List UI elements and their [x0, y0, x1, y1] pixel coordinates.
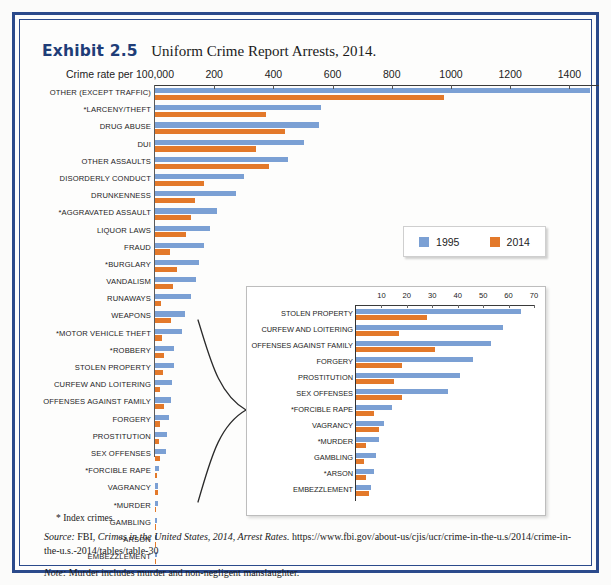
inset-bar-pair	[356, 373, 460, 387]
inset-bar-pair	[356, 453, 376, 467]
bar-2014	[155, 456, 160, 461]
bar-row: *LARCENY/THEFT	[20, 104, 595, 121]
inset-bar-2014	[356, 347, 435, 352]
exhibit-label: Exhibit 2.5	[42, 42, 138, 60]
bar-pair	[155, 449, 166, 464]
bar-row: DUI	[20, 139, 595, 156]
inset-x-tick-60: 60	[504, 291, 512, 300]
bar-pair	[155, 140, 304, 155]
inset-bar-1995	[356, 325, 503, 330]
inset-bar-1995	[356, 357, 473, 362]
bar-2014	[155, 318, 171, 323]
inset-bar-pair	[356, 469, 374, 483]
bar-pair	[155, 157, 288, 172]
inset-bar-pair	[356, 421, 384, 435]
bar-row: *BURGLARY	[20, 259, 595, 276]
inset-x-tick-mark-60	[509, 305, 510, 308]
bar-2014	[155, 335, 162, 340]
bar-1995	[155, 243, 204, 248]
bar-row-label: DRUNKENNESS	[0, 191, 151, 200]
bar-2014	[155, 301, 161, 306]
bar-1995	[155, 501, 158, 506]
inset-bar-1995	[356, 389, 448, 394]
bar-pair	[155, 346, 174, 361]
x-tick-1000: 1000	[439, 68, 462, 80]
inset-x-tick-20: 20	[403, 291, 411, 300]
bar-1995	[155, 226, 210, 231]
bar-2014	[155, 284, 173, 289]
bar-1995	[155, 88, 590, 93]
bar-2014	[155, 507, 156, 512]
bar-pair	[155, 432, 167, 447]
inset-bar-pair	[356, 341, 491, 355]
x-tick-mark-200	[214, 85, 215, 89]
inset-bar-row: OFFENSES AGAINST FAMILY	[247, 339, 545, 355]
bar-row: DRUNKENNESS	[20, 190, 595, 207]
bar-row-label: VAGRANCY	[0, 483, 151, 492]
source-note: Source: FBI, Crimes in the United States…	[44, 530, 584, 557]
inset-bar-1995	[356, 373, 460, 378]
inset-bar-pair	[356, 405, 392, 419]
inset-bar-row: GAMBLING	[247, 451, 545, 467]
inset-bar-2014	[356, 315, 427, 320]
inset-bar-pair	[356, 437, 379, 451]
bar-2014	[155, 164, 269, 169]
inset-bar-pair	[356, 357, 473, 371]
bar-pair	[155, 483, 158, 498]
legend-swatch-1995	[419, 237, 429, 247]
bar-1995	[155, 329, 182, 334]
inset-bar-1995	[356, 485, 371, 490]
bar-1995	[155, 466, 159, 471]
x-tick-mark-1000	[451, 85, 452, 89]
x-tick-mark-1200	[510, 85, 511, 89]
bar-1995	[155, 122, 319, 127]
exhibit-frame-inner: Exhibit 2.5 Uniform Crime Report Arrests…	[19, 19, 592, 566]
bar-2014	[155, 129, 285, 134]
bar-1995	[155, 518, 157, 523]
bar-1995	[155, 397, 171, 402]
x-tick-mark-800	[392, 85, 393, 89]
bar-row-label: WEAPONS	[0, 311, 151, 320]
inset-bar-2014	[356, 491, 369, 496]
legend-item-2014: 2014	[490, 236, 530, 248]
inset-x-axis-tick-labels: 10203040506070	[247, 291, 545, 303]
inset-x-tick-10: 10	[377, 291, 385, 300]
bar-pair	[155, 294, 191, 309]
bar-pair	[155, 191, 236, 206]
inset-x-tick-30: 30	[428, 291, 436, 300]
bar-pair	[155, 243, 204, 258]
inset-bar-row: SEX OFFENSES	[247, 387, 545, 403]
x-tick-mark-400	[273, 85, 274, 89]
note-label: Note:	[44, 567, 66, 578]
bar-row-label: SEX OFFENSES	[0, 449, 151, 458]
inset-x-tick-mark-30	[432, 305, 433, 308]
bar-row-label: *MURDER	[0, 501, 151, 510]
index-crimes-footnote: * Index crimes	[56, 513, 112, 523]
source-italic-title: Crimes in the United States, 2014, Arres…	[98, 531, 290, 542]
inset-bar-pair	[356, 485, 371, 499]
bar-row-label: DUI	[0, 140, 151, 149]
bar-1995	[155, 174, 244, 179]
inset-bar-rows: STOLEN PROPERTYCURFEW AND LOITERINGOFFEN…	[247, 307, 545, 499]
inset-bar-row: CURFEW AND LOITERING	[247, 323, 545, 339]
inset-bar-2014	[356, 427, 379, 432]
bar-1995	[155, 294, 191, 299]
bar-row-label: *ROBBERY	[0, 346, 151, 355]
inset-bar-row: PROSTITUTION	[247, 371, 545, 387]
bar-row-label: FRAUD	[0, 243, 151, 252]
bar-2014	[155, 267, 177, 272]
x-axis-tick-labels: 200400600800100012001400	[20, 68, 595, 82]
inset-bar-row-label: *ARSON	[213, 469, 353, 478]
inset-x-tick-mark-70	[534, 305, 535, 308]
bar-1995	[155, 311, 185, 316]
bar-1995	[155, 432, 167, 437]
bar-2014	[155, 490, 158, 495]
bar-row-label: DISORDERLY CONDUCT	[0, 174, 151, 183]
bar-1995	[155, 260, 199, 265]
bar-2014	[155, 473, 157, 478]
x-tick-400: 400	[265, 68, 283, 80]
bar-pair	[155, 501, 158, 516]
inset-bar-row-label: PROSTITUTION	[213, 373, 353, 382]
chart-legend: 1995 2014	[403, 226, 546, 257]
bar-row: *AGGRAVATED ASSAULT	[20, 207, 595, 224]
